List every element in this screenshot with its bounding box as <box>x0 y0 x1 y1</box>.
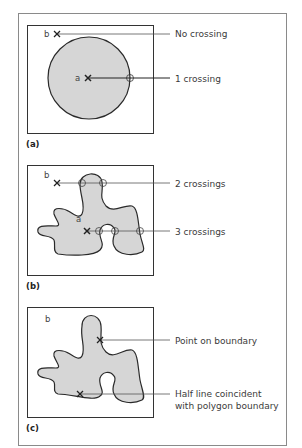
point-a-label: a <box>75 73 80 83</box>
point-in-polygon-diagram: b a No crossing 1 crossing (a) b a 2 cro… <box>0 0 302 448</box>
annotation-1-crossing: 1 crossing <box>175 74 221 84</box>
annotation-2-crossings: 2 crossings <box>175 179 226 189</box>
annotation-no-crossing: No crossing <box>175 29 227 39</box>
point-b-label: b <box>44 170 49 180</box>
panel-caption-c: (c) <box>26 423 39 433</box>
annotation-half-line-1: Half line coincident <box>175 389 262 399</box>
annotation-point-on-boundary: Point on boundary <box>175 336 258 346</box>
annotation-half-line-2: with polygon boundary <box>175 401 279 411</box>
panel-caption-b: (b) <box>26 281 40 291</box>
annotation-3-crossings: 3 crossings <box>175 227 226 237</box>
panel-caption-a: (a) <box>26 139 40 149</box>
point-a-label: a <box>76 214 81 224</box>
point-b-label: b <box>44 29 49 39</box>
point-b-label: b <box>45 314 50 324</box>
